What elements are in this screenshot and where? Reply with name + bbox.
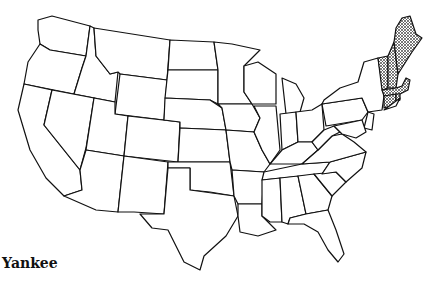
state-wyoming [115, 74, 167, 120]
state-florida [288, 210, 344, 262]
map-title: Yankee [2, 255, 58, 271]
state-maine [394, 16, 422, 74]
state-arkansas [232, 170, 264, 204]
state-colorado [124, 116, 180, 162]
us-map [0, 0, 430, 287]
state-kansas [178, 128, 230, 162]
state-mississippi [262, 178, 282, 222]
state-wisconsin [244, 62, 276, 104]
state-new-mexico [118, 156, 168, 214]
state-north-dakota [168, 40, 218, 70]
state-michigan [282, 78, 304, 114]
